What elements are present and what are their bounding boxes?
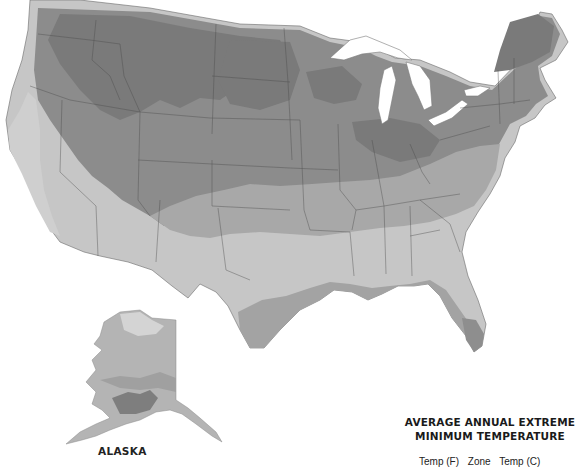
legend-title-line1: AVERAGE ANNUAL EXTREME xyxy=(404,415,576,429)
legend-column-headers: Temp (F) Zone Temp (C) xyxy=(419,456,546,467)
legend-col-zone: Zone xyxy=(468,456,491,467)
legend-title-line2: MINIMUM TEMPERATURE xyxy=(404,429,576,443)
legend-title: AVERAGE ANNUAL EXTREME MINIMUM TEMPERATU… xyxy=(404,415,576,443)
legend-col-temp-c: Temp (C) xyxy=(499,456,540,467)
alaska-label: ALASKA xyxy=(98,445,147,457)
alaska-inset xyxy=(66,310,222,444)
legend-col-temp-f: Temp (F) xyxy=(419,456,459,467)
